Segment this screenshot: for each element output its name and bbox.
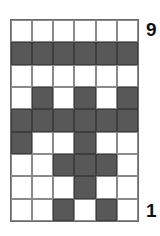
grid-cell [74, 199, 95, 221]
grid-cell [117, 65, 138, 87]
grid-cell [32, 87, 53, 109]
grid-cell [11, 42, 32, 64]
grid-cell [117, 109, 138, 131]
grid-cell [53, 132, 74, 154]
grid-cell [74, 65, 95, 87]
grid-cell [11, 20, 32, 42]
grid-cell [74, 154, 95, 176]
grid-cell [11, 132, 32, 154]
row-label-bottom: 1 [146, 200, 157, 222]
grid-cell [11, 199, 32, 221]
grid-cell [96, 132, 117, 154]
row-label-top: 9 [146, 19, 157, 41]
grid-cell [74, 132, 95, 154]
grid-cell [96, 176, 117, 198]
grid-cell [32, 199, 53, 221]
grid-cell [32, 176, 53, 198]
grid-cell [11, 87, 32, 109]
grid-cell [53, 109, 74, 131]
grid-cell [96, 154, 117, 176]
grid-cell [117, 176, 138, 198]
grid-cell [11, 154, 32, 176]
grid-cell [53, 65, 74, 87]
grid-cell [117, 154, 138, 176]
grid-cell [11, 176, 32, 198]
grid-cell [96, 87, 117, 109]
grid-cell [53, 176, 74, 198]
grid-cell [117, 20, 138, 42]
grid-cell [11, 65, 32, 87]
grid-cell [74, 87, 95, 109]
pixel-grid [10, 19, 139, 222]
grid-cell [32, 154, 53, 176]
grid-cell [32, 109, 53, 131]
grid-cell [53, 87, 74, 109]
grid-cell [32, 20, 53, 42]
grid-cell [96, 199, 117, 221]
grid-cell [53, 199, 74, 221]
grid-cell [96, 65, 117, 87]
grid-cell [117, 42, 138, 64]
grid-cell [74, 20, 95, 42]
grid-cell [96, 109, 117, 131]
grid-cell [53, 154, 74, 176]
grid-cell [53, 42, 74, 64]
grid-cell [74, 42, 95, 64]
grid-cell [74, 176, 95, 198]
grid-cell [53, 20, 74, 42]
grid-cell [117, 199, 138, 221]
grid-cell [32, 42, 53, 64]
grid-cell [117, 87, 138, 109]
grid-cell [32, 65, 53, 87]
grid-cell [96, 42, 117, 64]
grid-cell [11, 109, 32, 131]
grid-cell [74, 109, 95, 131]
grid-cell [96, 20, 117, 42]
grid-cell [117, 132, 138, 154]
grid-cell [32, 132, 53, 154]
